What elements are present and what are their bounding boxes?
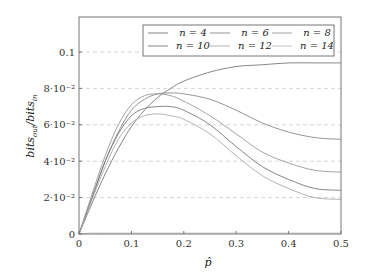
line-chart: 02·10⁻²4·10⁻²6·10⁻²8·10⁻²0.1 00.10.20.30… [0,0,368,278]
y-tick-label: 2·10⁻² [43,192,75,203]
x-tick-label: 0.2 [176,238,192,249]
legend-label: n = 4 [179,27,207,38]
series-line [79,94,341,234]
series-line [79,63,341,234]
x-tick-label: 0.3 [228,238,244,249]
y-axis-ticks: 02·10⁻²4·10⁻²6·10⁻²8·10⁻²0.1 [43,47,82,240]
x-tick-label: 0.4 [281,238,297,249]
legend-label: n = 12 [238,40,272,51]
svg-text:bitsout/bitsin: bitsout/bitsin [24,94,39,158]
y-tick-label: 0.1 [59,47,75,58]
y-tick-label: 4·10⁻² [43,156,75,167]
curves [79,63,341,234]
y-axis-label: bitsout/bitsin [24,94,39,158]
x-tick-label: 0.1 [123,238,139,249]
y-tick-label: 0 [69,229,75,240]
legend-label: n = 14 [300,40,334,51]
series-line [79,93,341,234]
x-tick-label: 0.5 [333,238,349,249]
y-tick-label: 8·10⁻² [43,83,75,94]
legend-label: n = 10 [176,40,211,51]
y-tick-label: 6·10⁻² [43,119,75,130]
legend: n = 4n = 6n = 8n = 10n = 12n = 14 [143,25,334,56]
legend-label: n = 6 [241,27,269,38]
legend-label: n = 8 [303,27,331,38]
x-tick-label: 0 [76,238,82,249]
x-axis-label: p̂ [204,256,211,269]
